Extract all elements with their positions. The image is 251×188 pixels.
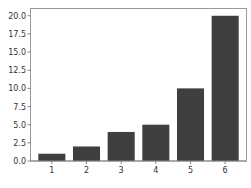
- y-tick-label: 5.0: [13, 121, 26, 130]
- x-tick-label: 6: [223, 166, 228, 175]
- y-tick-label: 12.5: [8, 66, 26, 75]
- y-tick-label: 2.5: [13, 139, 26, 148]
- x-tick-label: 4: [153, 166, 158, 175]
- bar-1: [38, 154, 65, 161]
- x-tick-label: 5: [188, 166, 193, 175]
- y-tick-label: 0.0: [13, 157, 26, 166]
- bar-chart: 0.02.55.07.510.012.515.017.520.0 123456: [0, 0, 251, 188]
- y-tick-label: 17.5: [8, 30, 26, 39]
- bar-4: [142, 125, 169, 161]
- bar-5: [177, 88, 204, 161]
- x-tick-label: 1: [49, 166, 54, 175]
- y-tick-label: 20.0: [8, 12, 26, 21]
- x-tick-label: 2: [84, 166, 89, 175]
- bar-6: [212, 16, 239, 161]
- y-tick-label: 10.0: [8, 84, 26, 93]
- x-axis: 123456: [31, 161, 247, 175]
- y-tick-label: 15.0: [8, 48, 26, 57]
- bar-2: [73, 146, 100, 161]
- bar-3: [108, 132, 135, 161]
- x-tick-label: 3: [119, 166, 124, 175]
- y-tick-label: 7.5: [13, 103, 26, 112]
- y-axis: 0.02.55.07.510.012.515.017.520.0: [8, 12, 30, 166]
